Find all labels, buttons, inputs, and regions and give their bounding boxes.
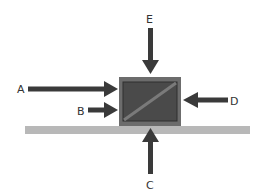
- label-d: D: [230, 95, 238, 108]
- ground-surface: [25, 126, 250, 134]
- force-diagram: A B D E C: [0, 0, 262, 196]
- arrow-a: [28, 81, 118, 97]
- label-a: A: [17, 83, 25, 96]
- arrow-d: [183, 92, 228, 108]
- label-e: E: [146, 13, 153, 26]
- arrow-c: [142, 128, 159, 174]
- label-c: C: [146, 179, 154, 192]
- crate: [119, 77, 181, 126]
- label-b: B: [77, 105, 85, 118]
- arrow-e: [142, 28, 159, 74]
- arrow-b: [88, 102, 118, 118]
